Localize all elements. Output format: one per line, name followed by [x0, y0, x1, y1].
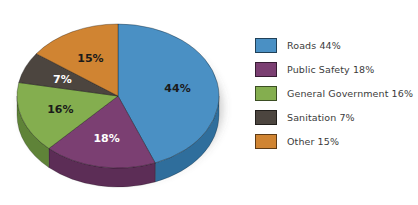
- legend-item-roads[interactable]: Roads 44%: [255, 36, 418, 54]
- legend-item-other[interactable]: Other 15%: [255, 132, 418, 150]
- legend-swatch-other: [255, 134, 277, 149]
- legend-item-general-government[interactable]: General Government 16%: [255, 84, 418, 102]
- legend-label-other: Other 15%: [287, 136, 339, 147]
- legend-swatch-general-government: [255, 86, 277, 101]
- chart-legend: Roads 44% Public Safety 18% General Gove…: [255, 36, 418, 156]
- legend-label-sanitation: Sanitation 7%: [287, 112, 355, 123]
- pie-chart-figure: 44%18%16%7%15% Roads 44% Public Safety 1…: [0, 0, 418, 205]
- pie-chart-svg: 44%18%16%7%15%: [0, 0, 240, 205]
- legend-swatch-sanitation: [255, 110, 277, 125]
- legend-item-sanitation[interactable]: Sanitation 7%: [255, 108, 418, 126]
- legend-label-general-government: General Government 16%: [287, 88, 413, 99]
- legend-label-roads: Roads 44%: [287, 40, 341, 51]
- legend-swatch-public-safety: [255, 62, 277, 77]
- legend-label-public-safety: Public Safety 18%: [287, 64, 374, 75]
- legend-item-public-safety[interactable]: Public Safety 18%: [255, 60, 418, 78]
- pie-chart-graphic: 44%18%16%7%15%: [0, 0, 240, 205]
- pie-slices: [17, 24, 219, 168]
- legend-swatch-roads: [255, 38, 277, 53]
